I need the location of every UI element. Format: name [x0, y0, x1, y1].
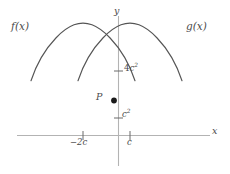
- y-tick-c2-exponent: 2: [127, 108, 131, 114]
- parabola-figure: f(x) g(x) y x 4c2 c2 P −2c c: [0, 0, 230, 174]
- y-tick-label-c2: c2: [122, 110, 130, 119]
- curve-label-f: f(x): [11, 21, 29, 32]
- y-axis-label: y: [114, 6, 119, 16]
- x-tick-label-minus-2c: −2c: [70, 138, 87, 147]
- x-axis-label: x: [212, 126, 217, 136]
- point-label-p: P: [96, 92, 102, 102]
- curve-f: [31, 23, 135, 81]
- x-tick-label-c: c: [127, 138, 132, 147]
- curve-label-g: g(x): [186, 21, 207, 32]
- y-tick-label-4c2: 4c2: [124, 64, 138, 73]
- y-tick-4c2-exponent: 2: [134, 62, 138, 68]
- intersection-point: [111, 98, 117, 104]
